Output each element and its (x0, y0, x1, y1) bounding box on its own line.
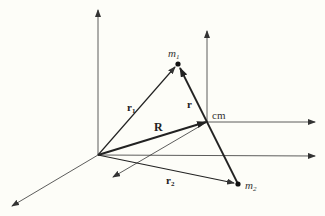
lab-frame-axes (12, 10, 315, 206)
vector-R (98, 122, 206, 155)
two-body-cm-diagram: m1 m2 r1 r2 R r cm (0, 0, 325, 216)
mass-m2-dot (235, 181, 240, 186)
mass-m1-dot (175, 61, 180, 66)
label-r2: r2 (166, 174, 175, 188)
lab-y-axis (12, 155, 98, 206)
vector-r1 (98, 67, 175, 155)
label-R: R (154, 120, 163, 134)
label-r: r (187, 98, 192, 110)
label-cm: cm (212, 109, 226, 121)
vector-r-relative (180, 68, 238, 184)
label-m1: m1 (168, 47, 179, 61)
lab-x-axis (98, 155, 315, 156)
position-vectors (98, 67, 238, 184)
label-r1: r1 (127, 101, 136, 115)
label-m2: m2 (245, 179, 257, 193)
